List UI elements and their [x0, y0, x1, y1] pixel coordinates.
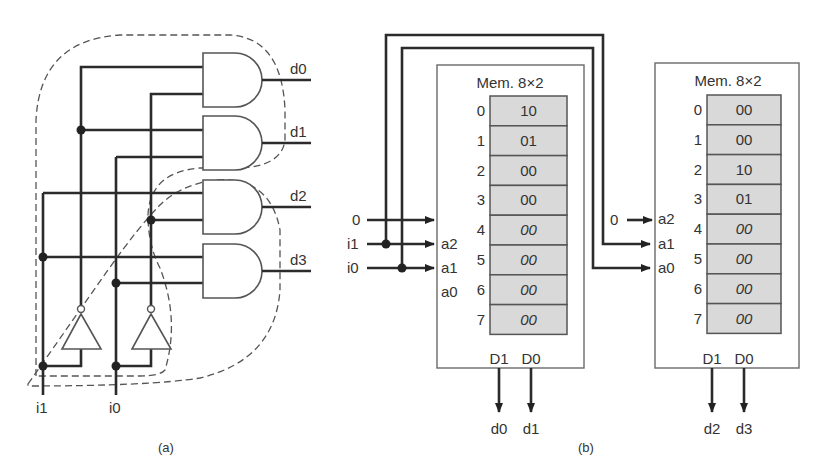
caption-b: (b): [578, 440, 594, 455]
memory-address: 4: [477, 221, 485, 238]
addr-pin-a1: a1: [441, 259, 458, 276]
memory-row: 700: [694, 304, 781, 334]
memory-value: 00: [520, 162, 537, 179]
memory-value: 00: [520, 311, 537, 328]
wire-not2-feed: [116, 349, 151, 366]
decoder-memory-diagram: d0 d1 d2 d3 i1 i0 (a) Mem. 8×2 010101200…: [0, 0, 821, 476]
memory-address: 6: [477, 281, 485, 298]
memory-address: 5: [477, 251, 485, 268]
memory-address: 2: [477, 162, 485, 179]
junction-dot: [112, 362, 121, 371]
memory-rows: 010101200300400500600700: [477, 96, 567, 334]
memory-address: 1: [477, 132, 485, 149]
wire-not-i1: [81, 67, 203, 312]
input-const-0: 0: [610, 211, 618, 228]
output-label-d1: d1: [523, 420, 540, 437]
memory-address: 5: [694, 250, 702, 267]
panel-b-memory-circuit: Mem. 8×2 010101200300400500600700 D1 D0 …: [347, 35, 799, 455]
memory-address: 6: [694, 280, 702, 297]
junction-dot: [382, 240, 391, 249]
memory-title: Mem. 8×2: [476, 74, 543, 91]
junction-dot: [398, 264, 407, 273]
memory-value: 00: [736, 280, 753, 297]
memory-value: 00: [736, 131, 753, 148]
output-label-d0: d0: [491, 420, 508, 437]
memory-value: 00: [736, 101, 753, 118]
memory-row: 700: [477, 305, 567, 335]
memory-rows: 000100210301400500600700: [694, 95, 781, 333]
memory-address: 7: [477, 311, 485, 328]
input-label-i1: i1: [347, 235, 359, 252]
data-pin-D1: D1: [489, 350, 508, 367]
memory-block-1: Mem. 8×2 010101200300400500600700 D1 D0 …: [437, 65, 584, 368]
memory-row: 101: [477, 126, 567, 156]
addr-pin-a2: a2: [441, 235, 458, 252]
memory-value: 00: [736, 250, 753, 267]
output-label-d1: d1: [290, 123, 307, 140]
memory-row: 600: [477, 275, 567, 305]
memory-row: 500: [694, 244, 781, 274]
panel-a-decoder-circuit: d0 d1 d2 d3 i1 i0 (a): [28, 35, 311, 455]
junction-dot: [112, 279, 121, 288]
memory-value: 00: [520, 281, 537, 298]
junction-dot: [39, 362, 48, 371]
addr-pin-a0: a0: [658, 259, 675, 276]
memory-address: 0: [477, 102, 485, 119]
input-const-0: 0: [352, 211, 360, 228]
addr-pin-a2: a2: [658, 210, 675, 227]
data-pin-D0: D0: [521, 350, 540, 367]
wire-not-i0: [151, 94, 203, 312]
memory-value: 01: [736, 190, 753, 207]
addr-pin-a0: a0: [441, 283, 458, 300]
data-pin-D1: D1: [702, 350, 721, 367]
input-label-i0: i0: [109, 399, 121, 416]
memory-row: 300: [477, 185, 567, 215]
memory-address: 3: [477, 191, 485, 208]
memory-block-2: Mem. 8×2 000100210301400500600700 D1 D0 …: [655, 63, 799, 368]
memory-address: 2: [694, 161, 702, 178]
memory-address: 3: [694, 190, 702, 207]
output-label-d3: d3: [290, 251, 307, 268]
memory-value: 01: [520, 132, 537, 149]
memory-address: 4: [694, 220, 702, 237]
output-label-d2: d2: [290, 187, 307, 204]
memory-value: 00: [520, 251, 537, 268]
memory-address: 0: [694, 101, 702, 118]
memory-row: 000: [694, 95, 781, 125]
memory-row: 500: [477, 245, 567, 275]
memory-title: Mem. 8×2: [694, 72, 761, 89]
caption-a: (a): [158, 440, 174, 455]
memory-value: 00: [736, 310, 753, 327]
junction-dot: [39, 253, 48, 262]
memory-row: 210: [694, 155, 781, 185]
memory-row: 010: [477, 96, 567, 126]
memory-address: 7: [694, 310, 702, 327]
memory-value: 00: [520, 191, 537, 208]
data-pin-D0: D0: [734, 350, 753, 367]
input-label-i1: i1: [36, 399, 48, 416]
memory-row: 400: [694, 214, 781, 244]
not-gate-i0: [132, 306, 171, 350]
memory-row: 100: [694, 125, 781, 155]
memory-value: 10: [520, 102, 537, 119]
memory-value: 00: [736, 220, 753, 237]
memory-row: 400: [477, 215, 567, 245]
memory-row: 600: [694, 274, 781, 304]
input-label-i0: i0: [347, 259, 359, 276]
output-label-d0: d0: [290, 60, 307, 77]
output-label-d2: d2: [704, 420, 721, 437]
junction-dot: [147, 216, 156, 225]
wire-not1-feed: [43, 349, 81, 366]
memory-value: 00: [520, 221, 537, 238]
memory-row: 301: [694, 184, 781, 214]
junction-dot: [77, 126, 86, 135]
memory-row: 200: [477, 156, 567, 186]
memory-value: 10: [736, 161, 753, 178]
output-label-d3: d3: [736, 420, 753, 437]
memory-address: 1: [694, 131, 702, 148]
addr-pin-a1: a1: [658, 235, 675, 252]
